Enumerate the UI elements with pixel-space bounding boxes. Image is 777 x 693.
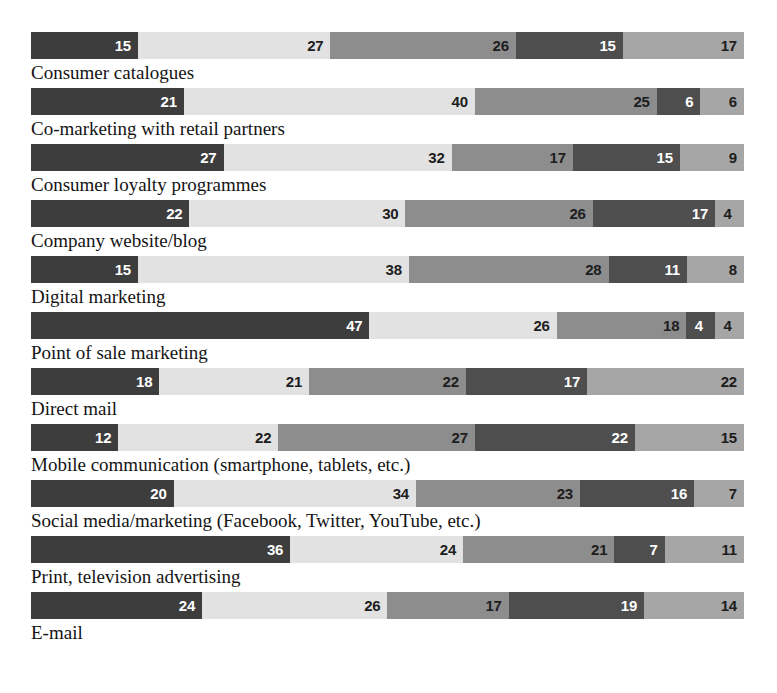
- category-label: Print, television advertising: [31, 565, 241, 589]
- category-label: E-mail: [31, 621, 83, 645]
- bar-segment: 22: [31, 200, 189, 227]
- bar-segment: 40: [184, 88, 475, 115]
- category-label: Mobile communication (smartphone, tablet…: [31, 453, 410, 477]
- bar-segment: 22: [475, 424, 635, 451]
- category-label: Point of sale marketing: [31, 341, 208, 365]
- bar-segment: 22: [309, 368, 466, 395]
- stacked-bar-chart: 1527261517Consumer catalogues21402566Co-…: [0, 0, 777, 693]
- bar-segment: 12: [31, 424, 118, 451]
- stacked-bar: 47261844: [31, 312, 744, 339]
- bar-segment: 18: [31, 368, 159, 395]
- chart-row: 2426171914E-mail: [0, 592, 777, 648]
- bar-segment: 21: [31, 88, 184, 115]
- bar-segment: 15: [573, 144, 680, 171]
- bar-segment: 28: [409, 256, 609, 283]
- bar-segment: 21: [463, 536, 614, 563]
- bar-segment: 15: [516, 32, 623, 59]
- bar-segment: 6: [700, 88, 744, 115]
- bar-segment: 4: [715, 312, 744, 339]
- bar-segment: 23: [416, 480, 580, 507]
- stacked-bar: 203423167: [31, 480, 744, 507]
- bar-segment: 17: [387, 592, 508, 619]
- bar-segment: 19: [509, 592, 644, 619]
- bar-segment: 17: [452, 144, 573, 171]
- stacked-bar: 1527261517: [31, 32, 744, 59]
- bar-segment: 22: [118, 424, 278, 451]
- bar-segment: 24: [31, 592, 202, 619]
- bar-segment: 11: [665, 536, 744, 563]
- bar-segment: 15: [31, 256, 138, 283]
- bar-segment: 17: [466, 368, 587, 395]
- category-label: Company website/blog: [31, 229, 207, 253]
- chart-row: 362421711Print, television advertising: [0, 536, 777, 592]
- stacked-bar: 2426171914: [31, 592, 744, 619]
- bar-segment: 9: [680, 144, 744, 171]
- bar-segment: 24: [290, 536, 463, 563]
- chart-row: 153828118Digital marketing: [0, 256, 777, 312]
- category-label: Consumer loyalty programmes: [31, 173, 266, 197]
- bar-segment: 20: [31, 480, 174, 507]
- bar-segment: 26: [405, 200, 592, 227]
- stacked-bar: 362421711: [31, 536, 744, 563]
- bar-segment: 27: [138, 32, 331, 59]
- bar-segment: 7: [694, 480, 744, 507]
- bar-segment: 21: [159, 368, 309, 395]
- bar-segment: 11: [609, 256, 687, 283]
- bar-segment: 17: [593, 200, 715, 227]
- bar-segment: 22: [587, 368, 744, 395]
- bar-segment: 8: [687, 256, 744, 283]
- chart-row: 203423167Social media/marketing (Faceboo…: [0, 480, 777, 536]
- bar-segment: 17: [623, 32, 744, 59]
- stacked-bar: 223026174: [31, 200, 744, 227]
- bar-segment: 47: [31, 312, 369, 339]
- category-label: Co-marketing with retail partners: [31, 117, 285, 141]
- bar-segment: 6: [657, 88, 701, 115]
- stacked-bar: 273217159: [31, 144, 744, 171]
- cut-off-title: [31, 0, 731, 5]
- category-label: Digital marketing: [31, 285, 166, 309]
- bar-segment: 34: [174, 480, 416, 507]
- bar-segment: 7: [614, 536, 664, 563]
- bar-segment: 36: [31, 536, 290, 563]
- bar-segment: 26: [202, 592, 387, 619]
- chart-row: 223026174Company website/blog: [0, 200, 777, 256]
- bar-segment: 4: [686, 312, 715, 339]
- chart-row: 1527261517Consumer catalogues: [0, 32, 777, 88]
- bar-segment: 30: [189, 200, 405, 227]
- category-label: Social media/marketing (Facebook, Twitte…: [31, 509, 481, 533]
- bar-segment: 27: [278, 424, 474, 451]
- chart-row: 273217159Consumer loyalty programmes: [0, 144, 777, 200]
- bar-segment: 38: [138, 256, 409, 283]
- bar-segment: 32: [224, 144, 452, 171]
- chart-rows: 1527261517Consumer catalogues21402566Co-…: [0, 32, 777, 648]
- stacked-bar: 1821221722: [31, 368, 744, 395]
- bar-segment: 18: [557, 312, 687, 339]
- stacked-bar: 1222272215: [31, 424, 744, 451]
- bar-segment: 25: [475, 88, 657, 115]
- chart-row: 21402566Co-marketing with retail partner…: [0, 88, 777, 144]
- bar-segment: 4: [715, 200, 744, 227]
- stacked-bar: 153828118: [31, 256, 744, 283]
- chart-row: 47261844Point of sale marketing: [0, 312, 777, 368]
- chart-row: 1222272215Mobile communication (smartpho…: [0, 424, 777, 480]
- category-label: Direct mail: [31, 397, 117, 421]
- stacked-bar: 21402566: [31, 88, 744, 115]
- bar-segment: 27: [31, 144, 224, 171]
- category-label: Consumer catalogues: [31, 61, 194, 85]
- bar-segment: 26: [369, 312, 556, 339]
- bar-segment: 15: [31, 32, 138, 59]
- bar-segment: 26: [330, 32, 515, 59]
- bar-segment: 14: [644, 592, 744, 619]
- bar-segment: 16: [580, 480, 694, 507]
- chart-row: 1821221722Direct mail: [0, 368, 777, 424]
- bar-segment: 15: [635, 424, 744, 451]
